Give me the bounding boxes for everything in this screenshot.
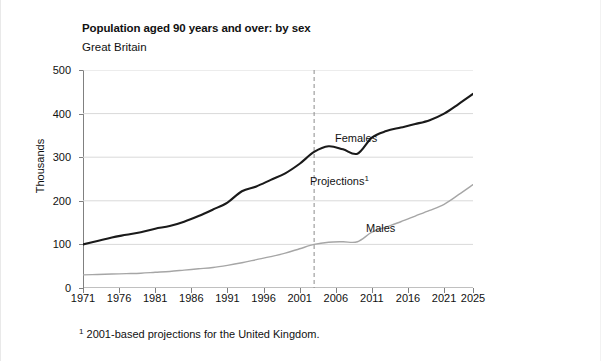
x-tick-mark [372, 288, 373, 293]
x-tick-mark [264, 288, 265, 293]
x-tick-mark [191, 288, 192, 293]
projections-annotation-marker: 1 [364, 174, 368, 183]
x-tick-label: 1981 [143, 292, 167, 304]
x-tick-label: 1996 [251, 292, 275, 304]
x-tick-label: 2021 [432, 292, 456, 304]
series-line-males [83, 185, 473, 275]
x-tick-mark [473, 288, 474, 293]
x-tick-mark [119, 288, 120, 293]
y-tick-label: 400 [1, 108, 79, 120]
chart-subtitle: Great Britain [82, 41, 147, 53]
x-tick-label: 2016 [396, 292, 420, 304]
series-label-females: Females [335, 132, 377, 144]
x-tick-mark [155, 288, 156, 293]
x-tick-mark [336, 288, 337, 293]
chart-svg [83, 70, 473, 288]
y-tick-label: 0 [1, 282, 79, 294]
footnote-marker: 1 [79, 327, 83, 336]
x-tick-label: 2001 [287, 292, 311, 304]
series-label-males: Males [366, 222, 395, 234]
x-tick-label: 1991 [215, 292, 239, 304]
projections-annotation: Projections1 [310, 174, 369, 187]
y-tick-label: 300 [1, 151, 79, 163]
x-tick-mark [227, 288, 228, 293]
x-tick-label: 2011 [360, 292, 384, 304]
projections-annotation-text: Projections [310, 175, 364, 187]
y-axis-title: Thousands [34, 106, 46, 226]
x-tick-label: 1976 [107, 292, 131, 304]
x-tick-label: 1986 [179, 292, 203, 304]
chart-figure: Population aged 90 years and over: by se… [0, 0, 601, 361]
y-tick-label: 500 [1, 64, 79, 76]
y-tick-label: 200 [1, 195, 79, 207]
x-tick-mark [408, 288, 409, 293]
y-tick-label: 100 [1, 238, 79, 250]
chart-footnote: 1 2001-based projections for the United … [79, 327, 320, 340]
plot-area: Females Males Projections1 [83, 70, 473, 288]
x-tick-label: 2006 [324, 292, 348, 304]
x-tick-label: 2025 [461, 292, 485, 304]
series-line-females [83, 94, 473, 244]
x-tick-mark [83, 288, 84, 293]
chart-title: Population aged 90 years and over: by se… [82, 22, 311, 34]
x-tick-mark [300, 288, 301, 293]
x-tick-mark [444, 288, 445, 293]
footnote-text: 2001-based projections for the United Ki… [87, 328, 320, 340]
x-tick-label: 1971 [71, 292, 95, 304]
